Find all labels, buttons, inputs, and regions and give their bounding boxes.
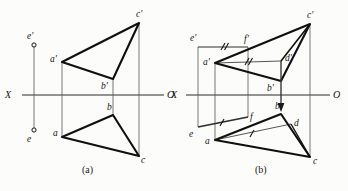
vertex-label-b-prime-b: b' <box>267 83 275 93</box>
vertex-label-f-b: f <box>250 112 254 122</box>
vertex-label-e-a: e <box>27 134 31 144</box>
caption-panel-a: (a) <box>82 164 93 176</box>
vertex-label-f-prime-b: f' <box>244 34 250 44</box>
vertex-label-e-prime-a: e' <box>27 31 34 41</box>
tick-single-ad-icon <box>250 130 254 137</box>
vertex-label-c-prime-b: c' <box>307 10 314 20</box>
panel-a-group: X O a' b' c' a b c e' e <box>4 9 174 165</box>
vertex-label-d-b: d <box>294 118 299 128</box>
vertex-label-e-b: e <box>189 129 193 139</box>
axis-label-o-b: O <box>333 89 340 100</box>
vertex-label-a-a: a <box>53 128 58 138</box>
triangle-b-front-view <box>215 24 310 81</box>
figure-root: X O a' b' c' a b c e' e <box>0 0 348 191</box>
vertex-label-b-a: b <box>107 102 112 112</box>
triangle-a-front-view <box>62 23 139 79</box>
triangle-a-top-view <box>62 115 139 156</box>
vertex-label-c-b: c <box>313 156 318 166</box>
vertex-label-a-prime-a: a' <box>50 54 58 64</box>
panel-b-group: X O a' b' c' d' e' f' a b c d e f <box>170 10 340 166</box>
vertex-label-b-b: b <box>275 101 280 111</box>
point-marker-e-prime-a <box>32 43 36 47</box>
vertex-label-c-prime-a: c' <box>136 9 143 19</box>
vertex-label-b-prime-a: b' <box>101 81 109 91</box>
vertex-label-a-b: a <box>205 136 210 146</box>
vertex-label-c-a: c <box>141 155 146 165</box>
axis-label-x-a: X <box>4 89 12 100</box>
vertex-label-e-prime-b: e' <box>190 33 197 43</box>
edge-d-c <box>291 124 310 157</box>
auxiliary-line-ef <box>198 117 248 127</box>
vertex-label-a-prime-b: a' <box>203 57 211 67</box>
vertex-label-d-prime-b: d' <box>285 53 293 63</box>
caption-panel-b: (b) <box>255 164 267 176</box>
point-marker-e-a <box>32 128 36 132</box>
axis-label-x-b: X <box>170 89 178 100</box>
technical-drawing-canvas: X O a' b' c' a b c e' e <box>0 0 348 191</box>
